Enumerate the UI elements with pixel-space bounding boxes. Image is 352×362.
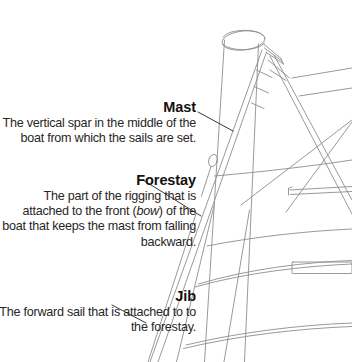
sailboat-diagram-page: Mast The vertical spar in the middle of …: [0, 0, 352, 362]
callout-forestay-body: The part of the rigging that is attached…: [0, 189, 196, 250]
mast-cap: [221, 29, 266, 52]
callout-forestay-body-italic-bow: bow: [136, 204, 158, 218]
callout-forestay-title: Forestay: [0, 172, 196, 188]
upper-rigging: [292, 68, 352, 96]
shroud-crossing: [241, 120, 352, 212]
backstay-lines: [270, 55, 352, 214]
callout-forestay: Forestay The part of the rigging that is…: [0, 172, 196, 250]
leader-line-mast: [198, 112, 233, 131]
callout-jib-body: The forward sail that is attached to to …: [0, 305, 196, 335]
boom-spar: [289, 187, 352, 196]
callout-jib: Jib The forward sail that is attached to…: [0, 288, 196, 335]
callout-mast-body: The vertical spar in the middle of the b…: [0, 116, 196, 146]
mast-shaft: [205, 40, 259, 362]
mast-spreaders: [252, 70, 273, 109]
callout-mast-title: Mast: [0, 99, 196, 115]
callout-mast: Mast The vertical spar in the middle of …: [0, 99, 196, 146]
callout-jib-title: Jib: [0, 288, 196, 304]
